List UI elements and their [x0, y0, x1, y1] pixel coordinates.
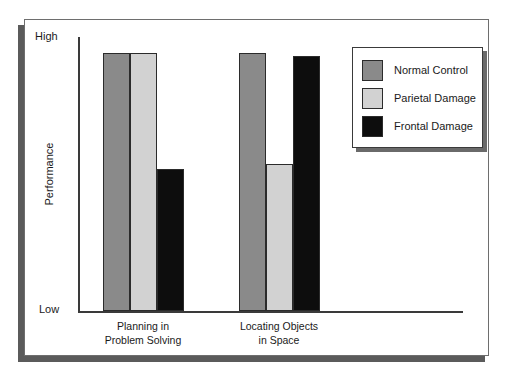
- y-axis-low-tick-label: Low: [39, 303, 59, 315]
- y-axis-title: Performance: [43, 126, 55, 222]
- legend-swatch-icon: [362, 88, 383, 109]
- bar-normal-group-1: [239, 53, 266, 311]
- y-axis-line: [78, 37, 80, 312]
- bar-parietal-group-0: [130, 53, 157, 311]
- legend-swatch-icon: [362, 60, 383, 81]
- bar-parietal-group-1: [266, 164, 293, 311]
- legend-item-label: Normal Control: [394, 64, 468, 76]
- legend-item-label: Parietal Damage: [394, 92, 476, 104]
- chart-legend: Normal Control Parietal Damage Frontal D…: [352, 47, 483, 148]
- plot-area: High Low Performance Planning in Problem…: [25, 20, 490, 357]
- category-label-line-1: Locating Objects: [199, 319, 359, 333]
- legend-item-label: Frontal Damage: [394, 120, 473, 132]
- category-label-line-2: in Space: [199, 333, 359, 347]
- legend-item-parietal-damage: Parietal Damage: [353, 84, 482, 112]
- x-axis-line: [78, 311, 463, 313]
- legend-item-normal-control: Normal Control: [353, 56, 482, 84]
- legend-swatch-icon: [362, 116, 383, 137]
- chart-figure-frame: High Low Performance Planning in Problem…: [24, 19, 489, 356]
- legend-item-frontal-damage: Frontal Damage: [353, 112, 482, 140]
- y-axis-high-tick-label: High: [35, 30, 58, 42]
- bar-normal-group-0: [103, 53, 130, 311]
- bar-frontal-group-1: [293, 56, 320, 311]
- x-axis-category-label-1: Locating Objects in Space: [199, 319, 359, 347]
- bar-frontal-group-0: [157, 169, 184, 311]
